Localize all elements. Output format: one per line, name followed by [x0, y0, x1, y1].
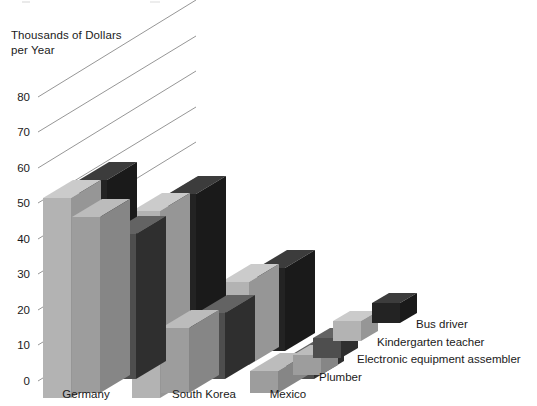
legend-swatch-bus-driver [372, 293, 417, 323]
legend-label-plumber: Plumber [319, 371, 362, 383]
scan-artifact-right [150, 1, 160, 3]
x-axis-label-germany: Germany [62, 388, 109, 400]
legend-label-bus-driver: Bus driver [416, 318, 468, 330]
legend-swatch-kindergarten-teacher [333, 311, 378, 341]
chart-container: Thousands of Dollars per Year 0 10 20 30… [0, 0, 537, 406]
x-axis-label-south-korea: South Korea [172, 388, 236, 400]
x-axis-label-mexico: Mexico [270, 388, 306, 400]
scan-artifact-left [22, 1, 30, 3]
legend-label-kindergarten-teacher: Kindergarten teacher [377, 336, 484, 348]
legend-label-electronic-equipment-assembler: Electronic equipment assembler [357, 353, 521, 365]
bar-germany-plumber [72, 199, 130, 393]
